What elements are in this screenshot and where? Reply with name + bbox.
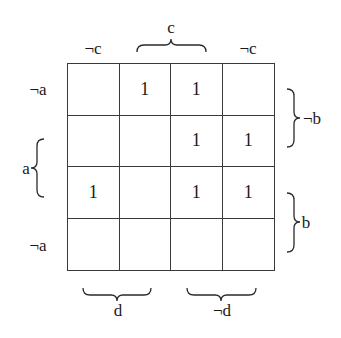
bottom-label-d: d <box>114 302 123 319</box>
column-label-not-c-left: ¬c <box>84 40 101 57</box>
brace-a-icon <box>31 139 44 197</box>
cell-r1-c1 <box>68 64 120 116</box>
cell-r3-c1: 1 <box>68 167 120 219</box>
row-label-a: a <box>22 160 30 177</box>
cell-r3-c2 <box>120 167 172 219</box>
brace-not-d-icon <box>187 288 256 301</box>
karnaugh-map-grid: 1 1 1 1 1 1 1 <box>67 63 275 271</box>
column-label-not-c-right: ¬c <box>239 40 256 57</box>
cell-r4-c2 <box>120 219 172 271</box>
cell-r1-c4 <box>223 64 275 116</box>
side-label-b: b <box>302 214 311 231</box>
cell-r1-c2: 1 <box>120 64 172 116</box>
cell-r3-c4: 1 <box>223 167 275 219</box>
column-label-c: c <box>167 19 175 36</box>
side-label-not-b: ¬b <box>303 110 321 127</box>
cell-r2-c4: 1 <box>223 116 275 168</box>
cell-r4-c3 <box>171 219 223 271</box>
brace-d-icon <box>83 288 151 301</box>
brace-c-icon <box>137 39 206 52</box>
cell-r2-c1 <box>68 116 120 168</box>
bottom-label-not-d: ¬d <box>213 302 231 319</box>
brace-not-b-icon <box>287 89 300 147</box>
row-label-not-a-bottom: ¬a <box>29 237 46 254</box>
cell-r2-c3: 1 <box>171 116 223 168</box>
cell-r1-c3: 1 <box>171 64 223 116</box>
brace-b-icon <box>287 193 300 252</box>
cell-r3-c3: 1 <box>171 167 223 219</box>
cell-r4-c4 <box>223 219 275 271</box>
row-label-not-a-top: ¬a <box>29 81 46 98</box>
cell-r2-c2 <box>120 116 172 168</box>
cell-r4-c1 <box>68 219 120 271</box>
